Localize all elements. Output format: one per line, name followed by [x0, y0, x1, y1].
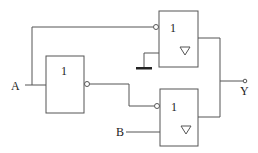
- input-label-a: A: [11, 79, 20, 93]
- wire-top-output: [198, 38, 220, 117]
- input-label-b: B: [116, 125, 124, 139]
- output-label-y: Y: [240, 84, 249, 98]
- ground-icon: [136, 67, 152, 70]
- top-buffer-symbol: 1: [170, 21, 176, 35]
- tristate-buffer-bottom: 1: [155, 89, 199, 146]
- wire-ground-to-top-input: [144, 53, 159, 67]
- bottom-buffer-symbol: 1: [171, 100, 177, 114]
- inverter-gate: 1: [46, 56, 90, 113]
- wire-inverter-to-bottom-enable: [90, 84, 155, 106]
- tristate-buffer-top: 1: [154, 11, 199, 67]
- logic-circuit-diagram: A 1 1 1 B Y: [0, 0, 258, 153]
- bottom-enable-bubble: [155, 104, 160, 109]
- inverter-output-bubble: [85, 82, 90, 87]
- inverter-symbol: 1: [61, 64, 67, 78]
- top-enable-bubble: [154, 25, 159, 30]
- output-terminal: [243, 79, 247, 83]
